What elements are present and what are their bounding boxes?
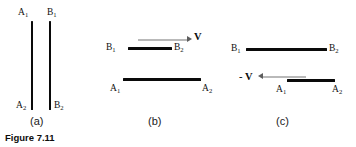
velocity-label-c: - V xyxy=(239,72,253,83)
panel-a-label-B2: B2 xyxy=(54,101,64,111)
rod-a-horizontal-c xyxy=(287,79,335,82)
velocity-arrow-b-head xyxy=(187,36,192,42)
rod-b-vertical xyxy=(49,21,51,110)
panel-a-label-A1: A1 xyxy=(18,8,28,18)
panel-b-caption: (b) xyxy=(148,116,161,127)
panel-a-label-B1: B1 xyxy=(47,8,57,18)
panel-c-label-B2: B2 xyxy=(329,44,339,54)
rod-b-horizontal-c xyxy=(246,48,327,51)
rod-b-horizontal xyxy=(128,47,172,50)
panel-c-label-B1: B1 xyxy=(231,44,241,54)
panel-c-label-A2: A2 xyxy=(332,85,342,95)
figure-7-11: A1 B1 A2 B2 (a) V B1 B2 A1 A2 (b) B1 xyxy=(0,0,356,147)
panel-a-label-A2: A2 xyxy=(16,101,26,111)
panel-a-caption: (a) xyxy=(30,116,43,127)
velocity-label-b: V xyxy=(194,32,202,43)
panel-b-label-B1: B1 xyxy=(106,43,116,53)
panel-c-caption: (c) xyxy=(276,116,289,127)
velocity-arrow-b-shaft xyxy=(138,39,187,41)
rod-a-vertical xyxy=(31,21,33,110)
panel-c-label-A1: A1 xyxy=(276,85,286,95)
panel-b-label-A1: A1 xyxy=(110,84,120,94)
rod-a-horizontal xyxy=(123,78,201,81)
velocity-arrow-b xyxy=(138,36,192,44)
panel-b-label-A2: A2 xyxy=(202,84,212,94)
velocity-arrow-c-shaft xyxy=(263,76,306,78)
panel-b-label-B2: B2 xyxy=(174,43,184,53)
figure-caption: Figure 7.11 xyxy=(5,133,55,143)
velocity-arrow-c-head xyxy=(258,73,263,79)
